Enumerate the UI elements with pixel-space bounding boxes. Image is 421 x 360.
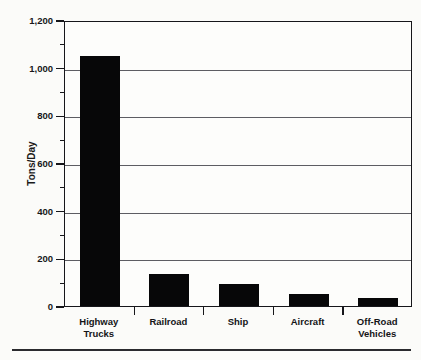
x-axis-tick-2 [273,307,274,315]
bar-off-road-vehicles [358,298,398,306]
x-axis-label-line: Highway [64,316,134,328]
y-axis-label-800: 800 [9,110,53,121]
x-axis-label-aircraft: Aircraft [273,316,343,328]
y-axis-tick-600 [56,163,64,164]
y-axis-minor-tick-500 [60,187,65,188]
y-axis-label-1200: 1,200 [9,15,53,26]
x-axis-label-line: Off-Road [342,316,412,328]
y-axis-label-200: 200 [9,253,53,264]
y-axis-label-600: 600 [9,158,53,169]
bar-aircraft [289,294,329,306]
y-axis-tick-0 [56,306,64,307]
y-axis-label-1000: 1,000 [9,63,53,74]
x-axis-label-highway-trucks: HighwayTrucks [64,316,134,339]
x-axis-tick-1 [203,307,204,315]
x-axis-label-line: Trucks [64,328,134,340]
bar-ship [219,284,259,306]
y-axis-label-400: 400 [9,206,53,217]
y-axis-tick-200 [56,259,64,260]
x-axis-tick-3 [342,307,343,315]
x-axis-label-line: Railroad [134,316,204,328]
y-axis-tick-800 [56,116,64,117]
x-axis-label-off-road-vehicles: Off-RoadVehicles [342,316,412,339]
y-axis-tick-1200 [56,20,64,21]
y-axis-tick-400 [56,211,64,212]
y-axis-tick-1000 [56,68,64,69]
y-axis-minor-tick-1100 [60,44,65,45]
y-axis-minor-tick-900 [60,92,65,93]
x-axis-label-ship: Ship [203,316,273,328]
plot-area [64,21,412,307]
bar-railroad [149,274,189,306]
x-axis-label-line: Ship [203,316,273,328]
x-axis-label-railroad: Railroad [134,316,204,328]
y-axis-label-0: 0 [9,301,53,312]
bar-highway-trucks [80,56,120,306]
bottom-horizontal-rule [12,349,411,351]
x-axis-tick-0 [134,307,135,315]
y-axis-minor-tick-100 [60,283,65,284]
y-axis-minor-tick-700 [60,140,65,141]
y-axis-minor-tick-300 [60,235,65,236]
x-axis-label-line: Aircraft [273,316,343,328]
bar-chart-figure: Tons/Day 02004006008001,0001,200HighwayT… [0,0,421,360]
x-axis-label-line: Vehicles [342,328,412,340]
